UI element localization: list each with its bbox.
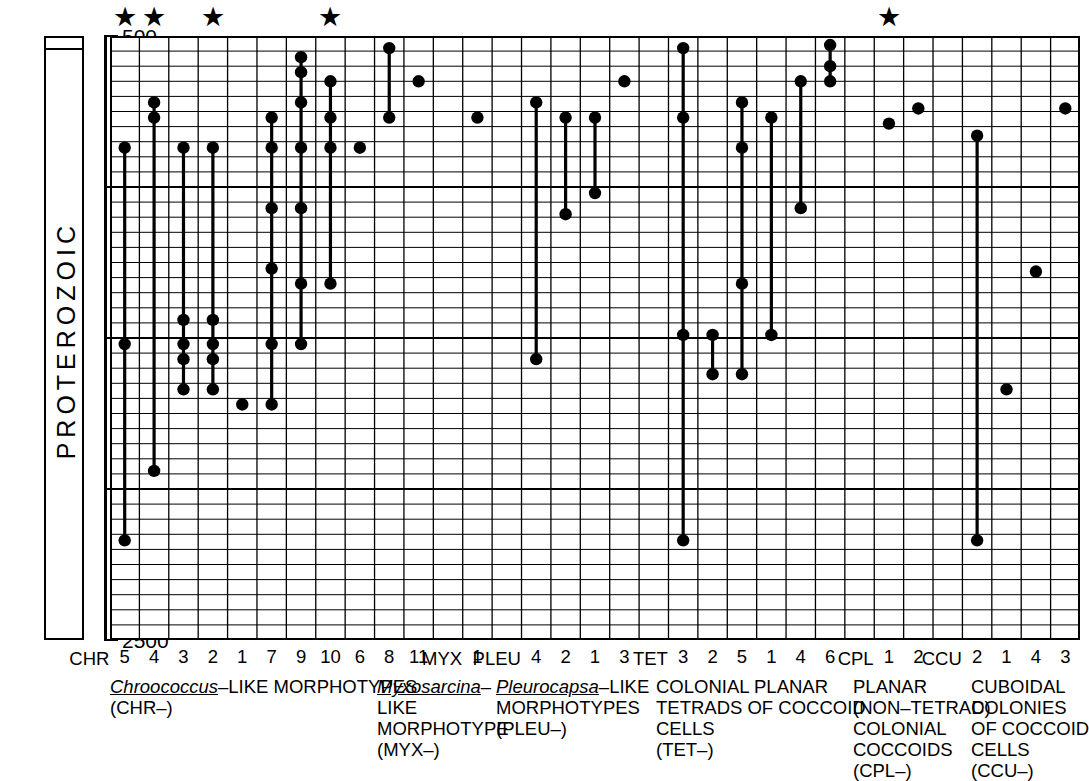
x-axis-tick-label: 5 — [120, 648, 130, 667]
data-point — [177, 338, 189, 350]
x-axis-tick-label: 4 — [149, 648, 159, 667]
data-point — [207, 314, 219, 326]
data-point — [677, 534, 689, 546]
data-point — [207, 338, 219, 350]
data-point — [795, 75, 807, 87]
data-point — [324, 111, 336, 123]
x-axis-tick-label: 4 — [796, 648, 806, 667]
star-icon: ★ — [113, 4, 137, 31]
group-title-line: Chroococcus–LIKE MORPHOTYPES — [110, 676, 417, 697]
group-taxon-name: Pleurocapsa — [496, 676, 599, 697]
data-point — [148, 465, 160, 477]
data-point — [148, 111, 160, 123]
x-axis-group-caption: Myxosarcina–LIKEMORPHOTYPE(MYX–) — [377, 676, 509, 760]
data-point — [295, 338, 307, 350]
data-point — [207, 353, 219, 365]
data-point — [295, 66, 307, 78]
group-caption-line: (CCU–) — [971, 760, 1089, 781]
x-axis-tick-label: 1 — [590, 648, 600, 667]
x-axis-tick-label: 6 — [825, 648, 835, 667]
data-point — [736, 96, 748, 108]
data-point — [207, 142, 219, 154]
data-point — [324, 277, 336, 289]
group-title-rest: – — [481, 676, 491, 697]
data-point — [706, 368, 718, 380]
data-point — [736, 277, 748, 289]
x-axis-tick-label: 2 — [972, 648, 982, 667]
data-point — [765, 329, 777, 341]
x-axis-tick-label: 9 — [296, 648, 306, 667]
data-point — [118, 534, 130, 546]
data-point — [354, 142, 366, 154]
data-point — [295, 142, 307, 154]
x-axis-group-prefix: TET — [633, 648, 668, 670]
group-caption-line: TETRADS OF COCCOID — [656, 697, 866, 718]
x-axis-tick-label: 3 — [678, 648, 688, 667]
group-caption-line: OF COCCOID — [971, 718, 1089, 739]
x-axis-group-prefix: CHR — [69, 648, 109, 670]
data-point — [736, 142, 748, 154]
data-point — [530, 353, 542, 365]
data-point — [265, 111, 277, 123]
data-point — [383, 111, 395, 123]
data-point — [824, 39, 836, 51]
x-axis-tick-label: 7 — [267, 648, 277, 667]
data-point — [559, 208, 571, 220]
group-title-line: Pleurocapsa–LIKE — [496, 676, 649, 697]
data-point — [295, 202, 307, 214]
data-point — [295, 277, 307, 289]
x-axis-tick-label: 1 — [766, 648, 776, 667]
data-point — [265, 338, 277, 350]
group-title-rest: COLONIAL PLANAR — [656, 676, 828, 697]
group-caption-line: MORPHOTYPE — [377, 718, 509, 739]
group-taxon-name: Chroococcus — [110, 676, 218, 697]
data-point — [677, 329, 689, 341]
data-point — [118, 142, 130, 154]
data-point — [736, 368, 748, 380]
data-point — [295, 96, 307, 108]
group-taxon-name: Myxosarcina — [377, 676, 481, 697]
data-point — [677, 42, 689, 54]
star-icon: ★ — [318, 4, 342, 31]
x-axis-tick-label: 3 — [178, 648, 188, 667]
data-point — [265, 262, 277, 274]
data-point — [265, 398, 277, 410]
x-axis-group-prefix: CCU — [922, 648, 962, 670]
data-point — [618, 75, 630, 87]
data-point — [236, 398, 248, 410]
data-point — [383, 42, 395, 54]
x-axis-tick-label: 2 — [707, 648, 717, 667]
data-point — [207, 383, 219, 395]
data-point — [1059, 102, 1071, 114]
group-title-line: CUBOIDAL — [971, 676, 1089, 697]
data-point — [530, 96, 542, 108]
data-point — [589, 111, 601, 123]
x-axis-tick-label: 1 — [884, 648, 894, 667]
x-axis-group-caption: Pleurocapsa–LIKEMORPHOTYPES(PLEU–) — [496, 676, 649, 739]
data-point — [912, 102, 924, 114]
x-axis-tick-label: 1 — [1001, 648, 1011, 667]
group-title-rest: –LIKE — [599, 676, 649, 697]
group-caption-line: MORPHOTYPES — [496, 697, 649, 718]
data-point — [1000, 383, 1012, 395]
x-axis-group-caption: COLONIAL PLANARTETRADS OF COCCOIDCELLS(T… — [656, 676, 866, 760]
data-point — [589, 187, 601, 199]
x-axis-tick-label: 2 — [208, 648, 218, 667]
data-point — [471, 111, 483, 123]
star-icon: ★ — [201, 4, 225, 31]
data-point — [295, 51, 307, 63]
star-icon: ★ — [142, 4, 166, 31]
data-point — [824, 60, 836, 72]
x-axis-tick-label: 2 — [560, 648, 570, 667]
star-icon: ★ — [877, 4, 901, 31]
group-caption-line: LIKE — [377, 697, 509, 718]
x-axis-tick-label: 3 — [619, 648, 629, 667]
group-title-rest: PLANAR — [853, 676, 927, 697]
x-axis-tick-label: 8 — [384, 648, 394, 667]
data-point — [265, 142, 277, 154]
data-point — [324, 142, 336, 154]
data-point — [148, 96, 160, 108]
x-axis-group-prefix: PLEU — [473, 648, 521, 670]
x-axis-group-prefix: CPL — [838, 648, 874, 670]
data-point — [824, 75, 836, 87]
